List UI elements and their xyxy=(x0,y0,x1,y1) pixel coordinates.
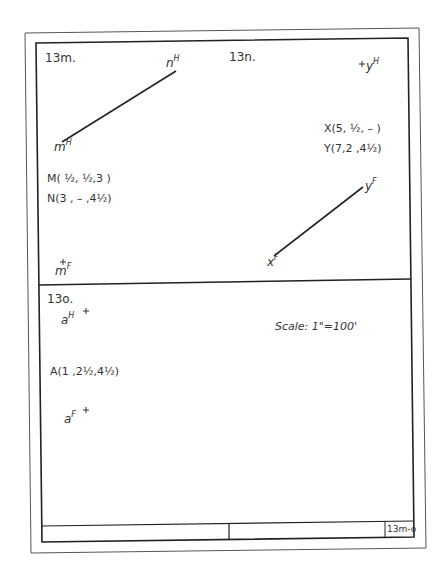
point-name: m xyxy=(54,140,66,154)
point-x-frontal: xF xyxy=(267,254,279,268)
view-superscript: F xyxy=(67,262,72,271)
view-superscript: H xyxy=(373,57,379,66)
view-superscript: H xyxy=(68,311,74,320)
point-y-horizontal: yH xyxy=(366,58,379,72)
problem-label-13m: 13m. xyxy=(45,52,76,64)
problem-label-13n: 13n. xyxy=(229,51,256,63)
view-superscript: F xyxy=(274,253,279,262)
section-divider xyxy=(39,279,411,285)
plus-marker-icons xyxy=(60,61,365,413)
problem-label-13o: 13o. xyxy=(47,293,73,305)
point-a-frontal: aF xyxy=(64,411,76,425)
outer-border xyxy=(25,28,426,553)
view-superscript: H xyxy=(174,54,180,63)
view-superscript: F xyxy=(372,177,377,186)
view-superscript: F xyxy=(71,410,76,419)
line-mn-horizontal-view xyxy=(62,71,176,142)
line-xy-frontal-view xyxy=(274,187,363,256)
point-n-horizontal: nH xyxy=(166,55,180,69)
point-name: n xyxy=(166,56,174,70)
point-a-horizontal: aH xyxy=(61,312,74,326)
coordinate-y: Y(7,2 ,4½) xyxy=(324,143,381,154)
point-m-horizontal: mH xyxy=(54,139,72,153)
point-m-frontal: mF xyxy=(55,263,71,277)
inner-border xyxy=(36,38,414,542)
coordinate-a: A(1 ,2½,4½) xyxy=(50,366,119,377)
title-block-line xyxy=(42,521,414,526)
coordinate-x: X(5, ½, – ) xyxy=(324,123,381,134)
coordinate-n: N(3 , – ,4½) xyxy=(47,193,111,204)
point-y-frontal: yF xyxy=(365,178,377,192)
drawing-sheet xyxy=(0,0,441,571)
view-superscript: H xyxy=(66,138,72,147)
scale-note: Scale: 1"=100' xyxy=(275,321,357,332)
sheet-id: 13m-o xyxy=(387,525,416,534)
point-name: m xyxy=(55,264,67,278)
coordinate-m: M( ½, ½,3 ) xyxy=(47,173,111,184)
